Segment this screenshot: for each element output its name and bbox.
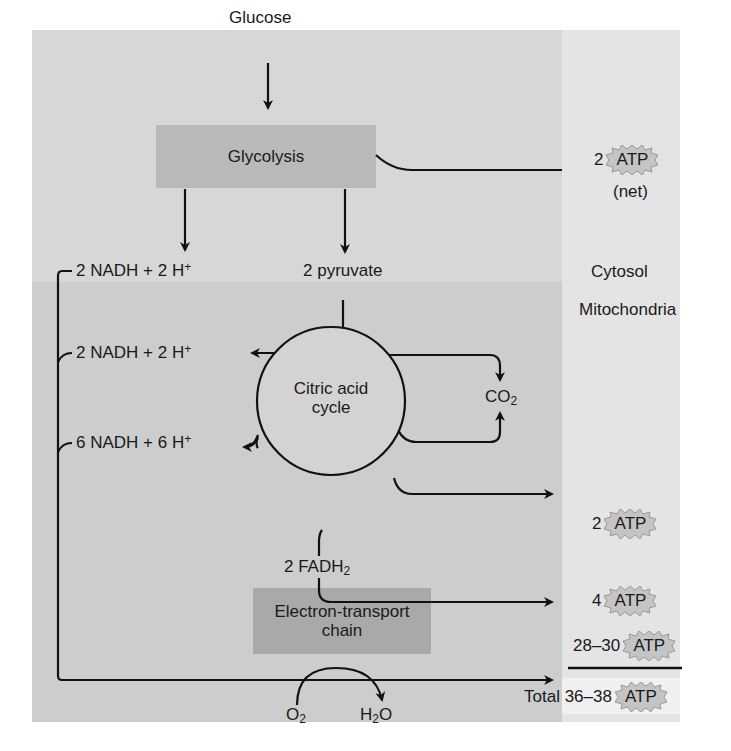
- o2-label: O2: [286, 705, 306, 725]
- atp-net-note: (net): [613, 182, 648, 202]
- atp-starburst-icon: ATP: [605, 145, 659, 175]
- atp-yield-glycolysis: 2 ATP: [594, 145, 659, 175]
- atp-starburst-icon: ATP: [603, 586, 657, 616]
- pyruvate-label: 2 pyruvate: [303, 261, 382, 281]
- fadh2-label: 2 FADH2: [284, 557, 350, 577]
- cytosol-label: Cytosol: [591, 262, 648, 282]
- atp-yield-electron-transport: 28–30 ATP: [573, 631, 676, 661]
- atp-yield-citric-acid-cycle: 2 ATP: [592, 509, 657, 539]
- nadh-pyruvate-label: 2 NADH + 2 H+: [76, 343, 191, 363]
- citric-acid-cycle-label: Citric acid cycle: [271, 379, 391, 417]
- atp-yield-fadh2: 4 ATP: [592, 586, 657, 616]
- atp-starburst-icon: ATP: [603, 509, 657, 539]
- atp-starburst-icon: ATP: [622, 631, 676, 661]
- mitochondria-label: Mitochondria: [579, 300, 676, 320]
- atp-starburst-icon: ATP: [614, 682, 668, 712]
- atp-total: Total 36–38 ATP: [524, 682, 668, 712]
- h2o-label: H2O: [360, 705, 392, 725]
- co2-label: CO2: [485, 387, 517, 407]
- glucose-label: Glucose: [229, 8, 291, 28]
- nadh-cycle-label: 6 NADH + 6 H+: [76, 433, 191, 453]
- nadh-glycolysis-label: 2 NADH + 2 H+: [76, 261, 191, 281]
